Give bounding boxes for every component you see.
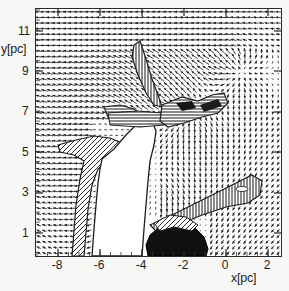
spike-upper-shape <box>132 41 162 107</box>
y-tick-9: 9 <box>22 64 28 78</box>
x-tick-minus4: -4 <box>136 258 146 272</box>
y-tick-5: 5 <box>22 145 28 159</box>
plot-area <box>35 8 282 257</box>
x-tick-2: 2 <box>264 258 270 272</box>
vector-field-plot <box>36 9 281 256</box>
x-tick-minus8: -8 <box>52 258 62 272</box>
y-tick-11: 11 <box>18 24 30 38</box>
figure-container: 11 9 7 5 3 1 -8 -6 -4 -2 0 2 y[pc] x[pc] <box>0 0 289 291</box>
y-axis-title: y[pc] <box>1 42 26 56</box>
x-tick-minus6: -6 <box>94 258 104 272</box>
y-tick-3: 3 <box>22 185 28 199</box>
velocity-vectors <box>36 12 281 256</box>
y-tick-1: 1 <box>22 226 28 240</box>
x-tick-minus2: -2 <box>178 258 188 272</box>
x-tick-0: 0 <box>222 258 228 272</box>
x-axis-title: x[pc] <box>231 271 256 285</box>
y-tick-7: 7 <box>22 104 28 118</box>
ridge-right-shape <box>160 93 228 127</box>
band-left-shape <box>108 111 164 127</box>
wedge-hole <box>236 187 248 192</box>
